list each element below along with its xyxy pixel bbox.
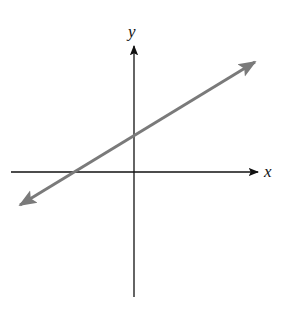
graph-svg: x y <box>0 0 281 322</box>
coordinate-plane: x y <box>0 0 281 322</box>
plotted-line <box>20 62 255 205</box>
x-axis-label: x <box>263 162 272 181</box>
y-axis-label: y <box>126 22 136 41</box>
